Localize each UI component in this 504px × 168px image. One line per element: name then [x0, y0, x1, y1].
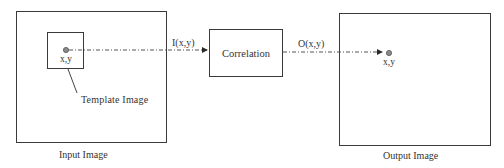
output-signal-label: O(x,y) — [298, 38, 324, 50]
output-point-label: x,y — [383, 56, 395, 68]
correlation-box: Correlation — [209, 29, 283, 77]
input-signal-label: I(x,y) — [172, 37, 195, 49]
template-image-caption: Template Image — [81, 94, 148, 106]
template-point-label: x,y — [60, 53, 72, 65]
correlation-label: Correlation — [210, 48, 282, 59]
input-image-caption: Input Image — [59, 149, 108, 161]
output-image-box — [339, 13, 491, 146]
input-image-box — [16, 11, 167, 143]
output-image-caption: Output Image — [383, 150, 438, 162]
